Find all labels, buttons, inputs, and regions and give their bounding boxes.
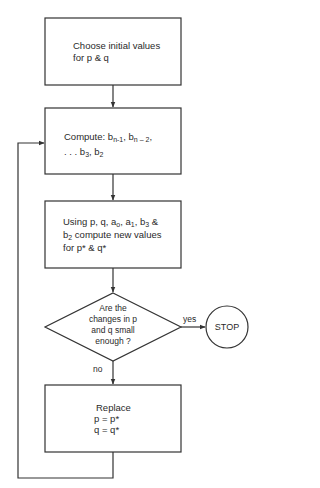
replace-line-3: q = q*	[94, 424, 131, 435]
replace-text: Replace p = p* q = q*	[94, 402, 131, 435]
init-line-2: for p & q	[73, 52, 160, 64]
compute-b-line-2: . . . b3, b2	[64, 144, 152, 159]
compute-pq-line-3: for p* & q*	[63, 241, 161, 254]
decision-line-1: Are the	[73, 303, 153, 314]
compute-pq-line-1: Using p, q, ao, a1, b3 &	[63, 215, 161, 228]
decision-text: Are the changes in p and q small enough …	[73, 303, 153, 347]
compute-b-text: Compute: bn-1, bn – 2, . . . b3, b2	[64, 129, 152, 159]
no-label: no	[93, 363, 102, 375]
compute-pq-text: Using p, q, ao, a1, b3 & b2 compute new …	[63, 215, 161, 254]
init-box-text: Choose initial values for p & q	[73, 40, 160, 64]
decision-line-2: changes in p	[73, 314, 153, 325]
replace-line-2: p = p*	[94, 413, 131, 424]
compute-pq-line-2: b2 compute new values	[63, 228, 161, 241]
stop-label: STOP	[206, 321, 248, 333]
decision-line-3: and q small	[73, 325, 153, 336]
replace-line-1: Replace	[94, 402, 131, 413]
yes-label: yes	[183, 313, 196, 325]
decision-line-4: enough ?	[73, 336, 153, 347]
compute-b-line-1: Compute: bn-1, bn – 2,	[64, 129, 152, 144]
init-line-1: Choose initial values	[73, 40, 160, 52]
